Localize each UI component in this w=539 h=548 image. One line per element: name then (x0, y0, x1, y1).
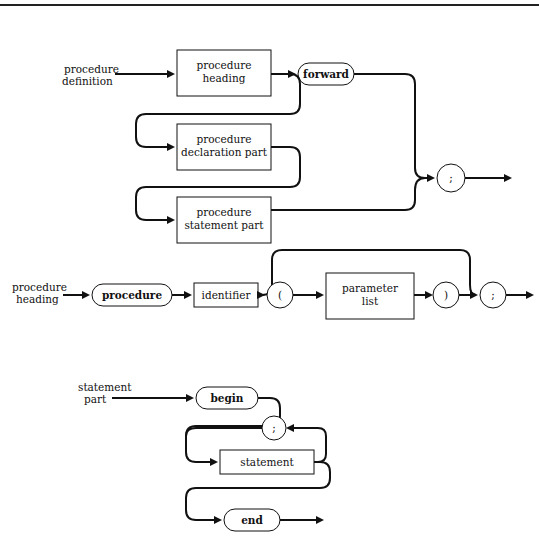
svg-text:end: end (241, 514, 263, 526)
identifier-box: identifier (194, 283, 258, 307)
forward-terminal: forward (298, 63, 354, 85)
statement-part-label-1: statement (78, 381, 132, 393)
svg-text:): ) (444, 289, 448, 301)
procedure-keyword-terminal: procedure (92, 284, 172, 306)
syntax-diagrams: procedure definition procedure heading f… (0, 0, 539, 548)
parameter-list-box: parameter list (326, 273, 414, 319)
svg-text:(: ( (278, 289, 282, 301)
procedure-heading-box: procedure heading (177, 50, 271, 96)
procedure-heading-label-2: heading (16, 293, 59, 305)
rparen-terminal: ) (433, 282, 459, 308)
svg-text:;: ; (491, 289, 495, 301)
procedure-heading-diagram: procedure heading procedure identifier (… (12, 250, 532, 319)
svg-text:begin: begin (211, 392, 244, 404)
procedure-declaration-part-box: procedure declaration part (177, 124, 271, 170)
svg-text:forward: forward (303, 68, 349, 80)
procedure-definition-diagram: procedure definition procedure heading f… (62, 50, 510, 243)
svg-text:statement: statement (240, 456, 294, 468)
svg-text:statement part: statement part (184, 219, 264, 231)
procedure-definition-label-2: definition (62, 75, 113, 87)
semicolon-terminal-2: ; (480, 282, 506, 308)
procedure-heading-label-1: procedure (12, 281, 67, 293)
end-terminal: end (224, 509, 280, 531)
semicolon-terminal-3: ; (262, 416, 286, 440)
begin-terminal: begin (196, 387, 258, 409)
svg-text:procedure: procedure (197, 133, 252, 145)
procedure-statement-part-box: procedure statement part (177, 197, 271, 243)
statement-part-diagram: statement part begin statement ; end (78, 381, 330, 531)
svg-text:procedure: procedure (102, 289, 162, 301)
svg-text:declaration part: declaration part (181, 146, 268, 158)
svg-text:;: ; (272, 422, 276, 434)
procedure-definition-label-1: procedure (64, 63, 119, 75)
statement-part-label-2: part (84, 393, 107, 405)
svg-text:list: list (362, 295, 379, 307)
svg-text:identifier: identifier (202, 289, 252, 301)
svg-text:procedure: procedure (197, 206, 252, 218)
svg-text:heading: heading (203, 72, 246, 84)
svg-text:;: ; (449, 172, 453, 184)
svg-text:procedure: procedure (197, 59, 252, 71)
statement-box: statement (220, 450, 314, 474)
svg-text:parameter: parameter (342, 282, 399, 294)
lparen-terminal: ( (267, 282, 293, 308)
semicolon-terminal-1: ; (437, 164, 465, 192)
